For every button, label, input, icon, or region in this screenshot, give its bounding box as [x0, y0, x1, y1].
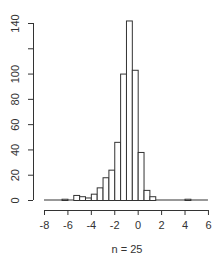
- histogram-bar: [103, 178, 109, 201]
- y-tick-label: 80: [9, 93, 21, 105]
- histogram-bar: [109, 170, 115, 200]
- histogram-bar: [121, 74, 127, 200]
- histogram-bar: [115, 142, 121, 200]
- x-tick-label: 6: [205, 219, 211, 231]
- x-axis-label: n = 25: [0, 243, 222, 255]
- x-tick-label: 4: [182, 219, 188, 231]
- y-tick-label: 60: [9, 119, 21, 131]
- y-tick-label: 20: [9, 169, 21, 181]
- y-axis: 020406080100140: [9, 14, 34, 203]
- y-tick-label: 100: [9, 65, 21, 83]
- y-tick-label: 40: [9, 144, 21, 156]
- x-axis: -8-6-4-20246: [40, 210, 212, 231]
- histogram-bar: [80, 197, 86, 201]
- y-tick-label: 0: [9, 197, 21, 203]
- x-tick-label: -4: [86, 219, 96, 231]
- histogram-bar: [144, 190, 150, 200]
- histogram-bar: [62, 199, 68, 200]
- histogram-bars: [44, 21, 208, 201]
- histogram-bar: [91, 194, 97, 200]
- x-tick-label: -8: [40, 219, 50, 231]
- x-tick-label: -2: [110, 219, 120, 231]
- x-tick-label: 0: [135, 219, 141, 231]
- histogram-bar: [138, 152, 144, 200]
- histogram-chart: 020406080100140 -8-6-4-20246: [0, 0, 222, 267]
- x-tick-label: 2: [159, 219, 165, 231]
- histogram-bar: [85, 198, 91, 201]
- histogram-bar: [132, 70, 138, 200]
- histogram-bar: [126, 21, 132, 201]
- y-tick-label: 140: [9, 14, 21, 32]
- histogram-bar: [150, 197, 156, 201]
- histogram-bar: [74, 195, 80, 200]
- histogram-bar: [185, 199, 191, 200]
- histogram-bar: [97, 188, 103, 201]
- x-tick-label: -6: [63, 219, 73, 231]
